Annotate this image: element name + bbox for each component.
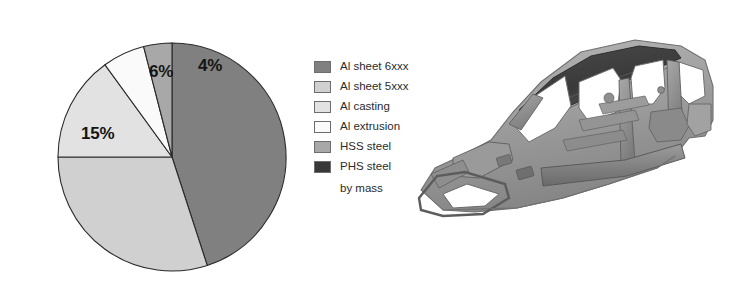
legend-item-label: HSS steel <box>340 141 391 153</box>
legend-swatch-icon <box>314 121 331 133</box>
figure-material-mass-split: 15% 6% 4% Al sheet 6xxx Al sheet 5xxx Al… <box>0 0 737 296</box>
mount-hole <box>658 87 665 94</box>
pie-chart-panel: 15% 6% 4% <box>0 0 300 296</box>
legend-item-label: Al casting <box>340 101 390 113</box>
legend-item-label: Al extrusion <box>340 121 400 133</box>
legend-swatch-icon <box>314 161 331 173</box>
legend-swatch-icon <box>314 141 331 153</box>
car-body-structure-illustration <box>413 8 737 288</box>
legend-item-label: Al sheet 5xxx <box>340 81 408 93</box>
pie-label-hss-steel: 4% <box>198 56 222 76</box>
pie-chart: 15% 6% 4% <box>57 42 287 272</box>
car-body-in-white-photo <box>413 8 737 288</box>
pie-label-al-extrusion: 6% <box>149 62 173 82</box>
legend-item-hss-steel[interactable]: HSS steel <box>314 137 408 157</box>
legend-item-al-casting[interactable]: Al casting <box>314 97 408 117</box>
strut-mount <box>604 93 614 103</box>
legend-item-al-extrusion[interactable]: Al extrusion <box>314 117 408 137</box>
legend-swatch-icon <box>314 81 331 93</box>
pie-label-al-casting: 15% <box>81 124 114 144</box>
legend-item-label: PHS steel <box>340 161 391 173</box>
legend-item-al-sheet-5xxx[interactable]: Al sheet 5xxx <box>314 77 408 97</box>
legend-note: by mass <box>340 182 408 194</box>
legend-item-phs-steel[interactable]: PHS steel <box>314 157 408 177</box>
legend-item-label: Al sheet 6xxx <box>340 61 408 73</box>
rear-wheel-arch <box>649 108 689 142</box>
chart-legend: Al sheet 6xxx Al sheet 5xxx Al casting A… <box>314 57 408 194</box>
legend-item-al-sheet-6xxx[interactable]: Al sheet 6xxx <box>314 57 408 77</box>
legend-swatch-icon <box>314 101 331 113</box>
legend-swatch-icon <box>314 61 331 73</box>
